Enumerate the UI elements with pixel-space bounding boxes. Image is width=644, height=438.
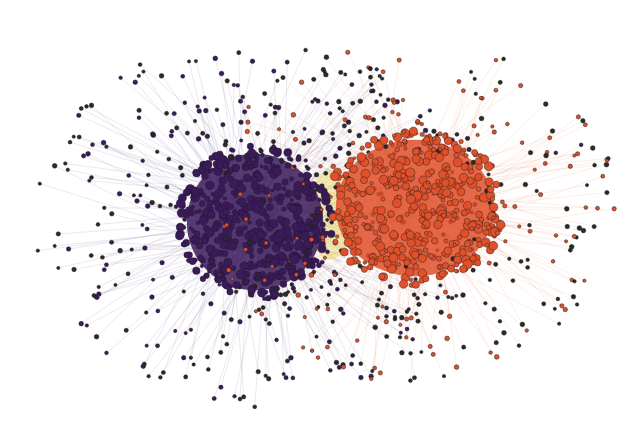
network-graph	[0, 0, 644, 438]
